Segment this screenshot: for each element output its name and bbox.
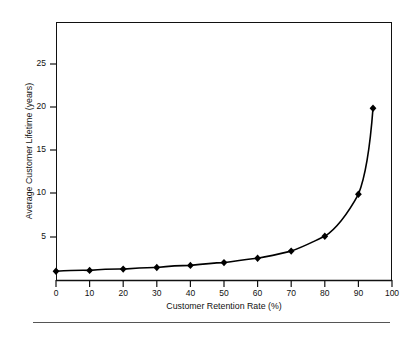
x-tick-label-90: 90: [346, 289, 370, 298]
data-point-markers: [53, 105, 377, 275]
x-tick-label-30: 30: [145, 289, 169, 298]
x-tick-label-80: 80: [313, 289, 337, 298]
footer-divider: [33, 322, 390, 323]
y-axis-title: Average Customer Lifetime (years): [24, 56, 34, 246]
x-axis-title: Customer Retention Rate (%): [56, 301, 392, 311]
chart-figure: 25 20 15 10 5 0 10 20 30 40 50 60 70 80 …: [0, 0, 418, 338]
x-tick-label-50: 50: [212, 289, 236, 298]
x-tick-label-70: 70: [279, 289, 303, 298]
data-series-line: [56, 108, 373, 271]
x-tick-label-40: 40: [178, 289, 202, 298]
x-tick-label-20: 20: [111, 289, 135, 298]
x-tick-label-0: 0: [44, 289, 68, 298]
x-tick-label-60: 60: [246, 289, 270, 298]
x-tick-label-100: 100: [380, 289, 404, 298]
y-axis-ticks: [50, 64, 56, 237]
x-tick-label-10: 10: [78, 289, 102, 298]
